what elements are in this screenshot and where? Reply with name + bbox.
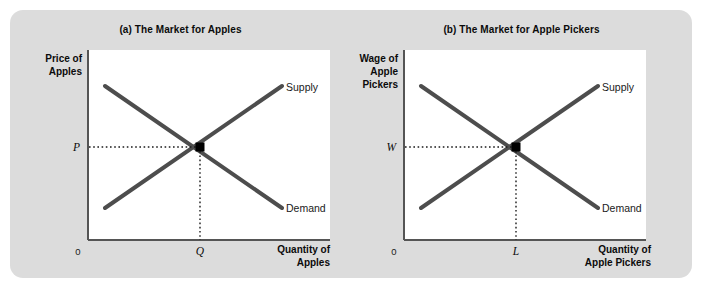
equilibrium-point-a (196, 143, 205, 152)
origin-label-b: 0 (391, 246, 396, 257)
equilibrium-price-label-a: P (72, 141, 80, 153)
equilibrium-quantity-label-a: Q (196, 245, 205, 257)
figure-root: (a) The Market for Apples Supply De (0, 0, 704, 292)
x-axis-title-b-line1: Quantity of (598, 244, 651, 255)
panel-market-for-apples: (a) The Market for Apples Supply De (10, 10, 351, 278)
demand-label-b: Demand (602, 202, 642, 214)
panel-a-chart: Supply Demand Price of Apples Quantity o… (10, 10, 351, 278)
x-axis-title-b-line2: Apple Pickers (585, 257, 652, 268)
supply-label-a: Supply (286, 81, 319, 93)
x-axis-title-a-line2: Apples (297, 257, 331, 268)
equilibrium-point-b (512, 143, 521, 152)
y-axis-title-a-line1: Price of (45, 53, 82, 64)
demand-label-a: Demand (286, 202, 326, 214)
origin-label-a: 0 (75, 246, 80, 257)
panel-market-for-apple-pickers: (b) The Market for Apple Pickers Supply (351, 10, 692, 278)
y-axis-title-b-line1: Wage of (359, 53, 398, 64)
equilibrium-wage-label-b: W (386, 141, 397, 153)
x-axis-title-a-line1: Quantity of (277, 244, 330, 255)
equilibrium-labor-label-b: L (512, 245, 519, 257)
supply-label-b: Supply (602, 81, 635, 93)
y-axis-title-a-line2: Apples (49, 66, 83, 77)
figure-card: (a) The Market for Apples Supply De (10, 10, 692, 278)
y-axis-title-b-line2: Apple (370, 66, 398, 77)
y-axis-title-b-line3: Pickers (362, 79, 398, 90)
panel-b-chart: Supply Demand Wage of Apple Pickers Quan… (351, 10, 692, 278)
